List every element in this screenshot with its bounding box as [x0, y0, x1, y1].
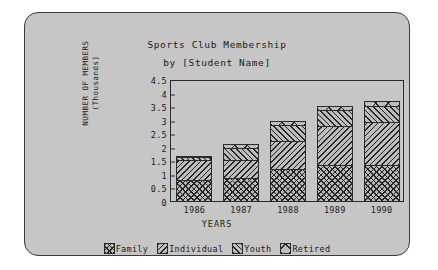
legend-item-retired[interactable]: Retired [280, 243, 330, 254]
y-axis-tick-label: 1.5 [151, 157, 167, 167]
y-axis-tick-label: 2.5 [151, 130, 167, 140]
bar-segment-family[interactable] [270, 169, 306, 202]
y-axis-tick-mark [171, 135, 175, 136]
legend-item-youth[interactable]: Youth [232, 243, 271, 254]
x-axis-title: YEARS [25, 219, 409, 229]
bar-segment-youth[interactable] [364, 106, 400, 123]
bar-segment-individual[interactable] [317, 126, 353, 167]
bar-segment-family[interactable] [317, 165, 353, 202]
bar-segment-family[interactable] [223, 178, 259, 202]
bar-1987[interactable]: 1987 [223, 144, 259, 201]
plot-area: 00.511.522.533.544.5 1986198719881989199… [170, 80, 404, 202]
legend-swatch-retired [280, 243, 291, 254]
y-axis-tick-label: 0.5 [151, 184, 167, 194]
bar-segment-individual[interactable] [364, 122, 400, 167]
chart-legend: FamilyIndividualYouthRetired [25, 243, 409, 254]
y-axis-tick-label: 3.5 [151, 103, 167, 113]
legend-label: Family [116, 244, 149, 254]
y-axis-title-line2: (Thousands) [91, 55, 101, 110]
bar-segment-individual[interactable] [270, 141, 306, 170]
legend-item-individual[interactable]: Individual [157, 243, 223, 254]
legend-swatch-family [104, 243, 115, 254]
y-axis-title: NUMBER OF MEMBERS (Thousands) [76, 13, 106, 153]
y-axis-tick-mark [171, 162, 175, 163]
bar-1988[interactable]: 1988 [270, 121, 306, 201]
legend-label: Retired [292, 244, 330, 254]
y-axis-tick-label: 1 [162, 171, 167, 181]
y-axis-tick-mark [171, 175, 175, 176]
y-axis-tick-label: 4 [162, 90, 167, 100]
y-axis-title-line1: NUMBER OF MEMBERS [81, 40, 91, 125]
bar-segment-youth[interactable] [317, 110, 353, 126]
bar-segment-family[interactable] [364, 165, 400, 202]
legend-label: Individual [169, 244, 223, 254]
bar-1986[interactable]: 1986 [176, 156, 212, 201]
bar-segment-family[interactable] [176, 180, 212, 202]
y-axis-tick-mark [171, 94, 175, 95]
y-axis-tick-mark [171, 108, 175, 109]
legend-swatch-individual [157, 243, 168, 254]
legend-swatch-youth [232, 243, 243, 254]
legend-item-family[interactable]: Family [104, 243, 149, 254]
bar-1989[interactable]: 1989 [317, 106, 353, 201]
y-axis-tick-mark [171, 189, 175, 190]
y-axis-tick-label: 4.5 [151, 76, 167, 86]
x-axis-tick-label: 1990 [352, 205, 412, 215]
chart-panel: Sports Club Membership by [Student Name]… [24, 12, 410, 256]
bar-segment-individual[interactable] [223, 160, 259, 179]
bar-segment-individual[interactable] [176, 160, 212, 182]
legend-label: Youth [244, 244, 271, 254]
bar-segment-youth[interactable] [270, 125, 306, 141]
y-axis-tick-label: 3 [162, 117, 167, 127]
y-axis-tick-mark [171, 121, 175, 122]
y-axis-tick-mark [171, 148, 175, 149]
y-axis-tick-label: 2 [162, 144, 167, 154]
bar-1990[interactable]: 1990 [364, 101, 400, 201]
